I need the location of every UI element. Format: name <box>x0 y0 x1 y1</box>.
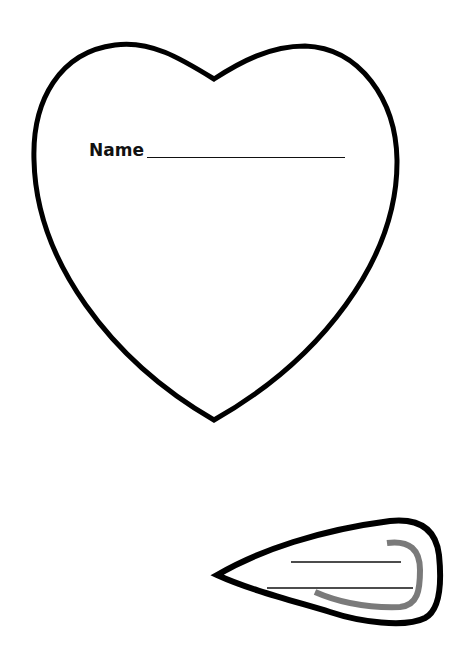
name-write-line[interactable] <box>147 157 345 158</box>
name-label: Name <box>89 140 144 160</box>
teardrop-hook-stroke <box>315 542 420 607</box>
heart-outline <box>34 44 397 420</box>
worksheet-canvas <box>0 0 471 667</box>
